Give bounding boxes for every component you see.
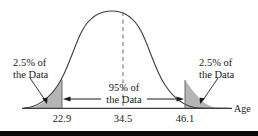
tick-label-lower-bound: 22.9: [53, 113, 71, 124]
x-axis-label: Age: [234, 103, 251, 114]
bottom-black-bar: [0, 131, 258, 136]
left-tail-label-line2: the Data: [13, 69, 49, 80]
right-tail-label-line2: the Data: [199, 69, 235, 80]
tick-label-upper-bound: 46.1: [176, 113, 194, 124]
distribution-chart-svg: 2.5% of the Data 2.5% of the Data 95% of…: [0, 0, 258, 136]
center-interval-label-line2: the Data: [106, 94, 142, 105]
tick-label-mean: 34.5: [114, 113, 132, 124]
left-tail-label-line1: 2.5% of: [13, 57, 47, 68]
normal-distribution-figure: 2.5% of the Data 2.5% of the Data 95% of…: [0, 0, 258, 136]
center-interval-label-line1: 95% of: [109, 82, 140, 93]
right-tail-label-line1: 2.5% of: [199, 57, 233, 68]
